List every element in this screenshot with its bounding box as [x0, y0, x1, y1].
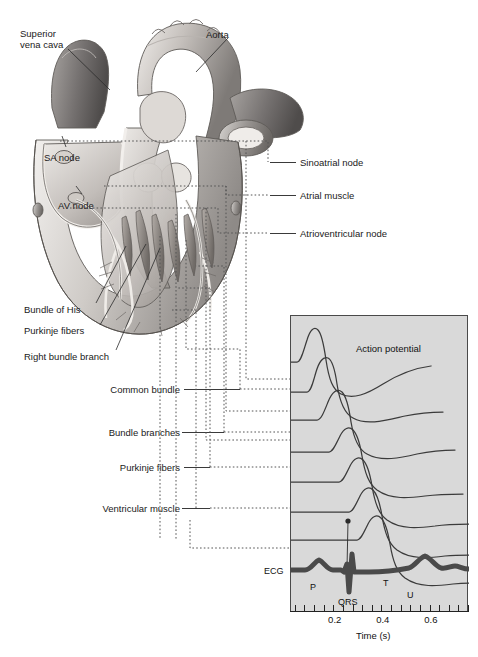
- time-axis-tick-label: 0.2: [328, 614, 341, 625]
- label-right-bundle-branch: Right bundle branch: [24, 351, 109, 362]
- time-axis-minor-tick: [353, 605, 354, 612]
- trace-common-bundle: [291, 428, 463, 498]
- time-axis-minor-tick: [458, 605, 459, 612]
- time-axis-minor-tick: [295, 605, 296, 612]
- figure-canvas: Superiorvena cava Aorta SA node AV node …: [0, 0, 478, 657]
- trace-atrioventricular-node: [291, 390, 455, 458]
- label-purkinje-fibers-heart: Purkinje fibers: [24, 325, 84, 336]
- time-axis-minor-tick: [468, 605, 469, 612]
- action-potential-traces: [291, 316, 469, 613]
- label-sinoatrial-node: Sinoatrial node: [300, 157, 363, 168]
- time-axis-tick-label: 0.6: [424, 614, 437, 625]
- action-potential-panel: [290, 315, 468, 612]
- trace-ecg: [291, 554, 469, 592]
- leader-purkinje-fibers: [184, 467, 210, 468]
- leader-atrioventricular-node: [270, 233, 296, 234]
- wave-label-u: U: [407, 590, 414, 600]
- time-axis-minor-tick: [391, 605, 392, 612]
- leader-sinoatrial-node: [270, 162, 296, 163]
- trace-ventricular-muscle: [291, 516, 469, 586]
- time-axis-minor-tick: [333, 605, 334, 612]
- label-bundle-branches: Bundle branches: [60, 427, 180, 438]
- time-axis-minor-tick: [430, 605, 431, 612]
- time-axis-line: [290, 611, 468, 612]
- time-axis-minor-tick: [381, 605, 382, 612]
- time-axis-minor-tick: [449, 605, 450, 612]
- leader-ventricular-muscle: [182, 508, 210, 509]
- wave-label-p: P: [310, 582, 316, 592]
- label-atrioventricular-node: Atrioventricular node: [300, 228, 387, 239]
- leader-common-bundle: [184, 389, 240, 390]
- label-av-node: AV node: [58, 200, 94, 211]
- time-axis-minor-tick: [401, 605, 402, 612]
- wave-label-qrs: QRS: [338, 597, 358, 607]
- label-purkinje-fibers: Purkinje fibers: [66, 462, 180, 473]
- time-axis-minor-tick: [304, 605, 305, 612]
- time-axis-minor-tick: [420, 605, 421, 612]
- label-ventricular-muscle: Ventricular muscle: [52, 503, 180, 514]
- label-sa-node: SA node: [44, 152, 80, 163]
- ap-marker-leader: [347, 521, 348, 568]
- action-potential-title: Action potential: [356, 343, 421, 354]
- trace-atrial-muscle: [291, 358, 443, 422]
- time-axis-minor-tick: [314, 605, 315, 612]
- wave-label-t: T: [383, 578, 389, 588]
- label-common-bundle: Common bundle: [65, 384, 180, 395]
- trace-purkinje-fibers: [291, 488, 469, 558]
- leader-atrial-muscle: [270, 195, 296, 196]
- label-aorta: Aorta: [206, 29, 229, 40]
- time-axis-title: Time (s): [356, 630, 390, 641]
- label-superior-vena-cava: Superiorvena cava: [20, 28, 63, 50]
- time-axis-minor-tick: [343, 605, 344, 612]
- time-axis-minor-tick: [362, 605, 363, 612]
- time-axis-minor-tick: [410, 605, 411, 612]
- time-axis-minor-tick: [372, 605, 373, 612]
- label-atrial-muscle: Atrial muscle: [300, 190, 354, 201]
- ecg-label: ECG: [264, 566, 284, 576]
- time-axis-minor-tick: [324, 605, 325, 612]
- label-bundle-of-his: Bundle of His: [24, 304, 81, 315]
- time-axis-tick-label: 0.4: [376, 614, 389, 625]
- leader-bundle-branches: [182, 432, 224, 433]
- time-axis-minor-tick: [439, 605, 440, 612]
